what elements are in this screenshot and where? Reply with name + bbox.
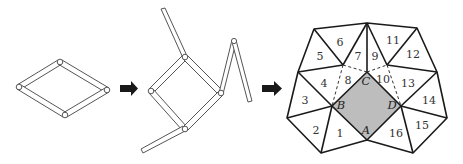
triangle-label-14: 14 — [422, 94, 436, 107]
triangle-label-5: 5 — [317, 50, 324, 63]
joint — [182, 126, 188, 132]
triangle-label-6: 6 — [337, 36, 344, 49]
joint — [16, 84, 22, 90]
triangle-label-2: 2 — [313, 124, 320, 137]
triangle-label-12: 12 — [406, 48, 420, 61]
stick — [149, 89, 187, 131]
triangle-label-9: 9 — [372, 50, 379, 63]
vertex-label-b: B — [336, 98, 345, 112]
triangulated-polygon: 1 2 3 4 5 6 7 8 9 10 11 12 13 14 15 16 C… — [287, 23, 447, 153]
triangle-label-4: 4 — [321, 77, 328, 90]
stick — [17, 60, 62, 89]
triangle-label-13: 13 — [401, 77, 415, 90]
joint — [57, 59, 63, 65]
stick — [161, 8, 187, 58]
triangle-label-11: 11 — [386, 34, 400, 47]
stick — [58, 60, 109, 92]
joint — [148, 88, 154, 94]
joint — [231, 38, 236, 43]
unfolded-linkage — [141, 8, 252, 153]
triangle-label-10: 10 — [376, 73, 390, 86]
stick — [183, 55, 223, 95]
joint — [62, 112, 68, 118]
stick — [183, 91, 223, 131]
right-arrow-icon — [120, 81, 138, 96]
triangle-label-1: 1 — [337, 127, 344, 140]
joint — [218, 90, 224, 96]
vertex-label-a: A — [361, 123, 370, 137]
triangle-label-15: 15 — [415, 119, 429, 132]
vertex-label-c: C — [362, 74, 371, 88]
stick — [149, 55, 187, 93]
stick — [17, 85, 67, 117]
figure-canvas: 1 2 3 4 5 6 7 8 9 10 11 12 13 14 15 16 C… — [0, 0, 463, 164]
stick — [63, 88, 109, 117]
stick — [232, 40, 252, 102]
joint — [104, 87, 110, 93]
joint — [182, 54, 188, 60]
rhombus-linkage — [16, 59, 110, 118]
triangle-label-7: 7 — [355, 50, 362, 63]
triangle-label-8: 8 — [345, 74, 352, 87]
vertex-label-d: D — [386, 98, 396, 112]
stick — [141, 126, 187, 153]
triangle-label-3: 3 — [302, 94, 309, 107]
triangle-label-16: 16 — [389, 127, 403, 140]
right-arrow-icon — [262, 81, 282, 96]
